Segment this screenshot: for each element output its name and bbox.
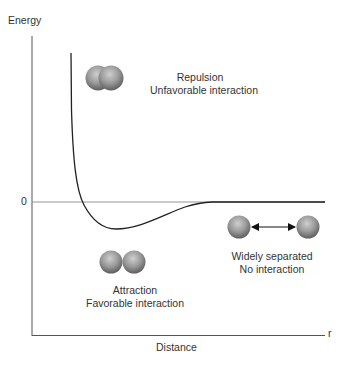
zero-label: 0 <box>21 195 27 208</box>
attraction-desc: Favorable interaction <box>80 297 190 310</box>
separated-title: Widely separated <box>222 250 322 263</box>
separated-label: Widely separated No interaction <box>222 250 322 276</box>
x-axis-label: Distance <box>156 341 197 354</box>
repulsion-desc: Unfavorable interaction <box>150 84 250 97</box>
attraction-title: Attraction <box>80 284 190 297</box>
y-axis-label: Energy <box>8 14 41 27</box>
separated-atoms-icon <box>228 216 320 239</box>
x-axis-symbol: r <box>328 327 332 340</box>
energy-diagram <box>0 0 351 368</box>
separated-desc: No interaction <box>222 263 322 276</box>
attraction-label: Attraction Favorable interaction <box>80 284 190 310</box>
repulsion-label: Repulsion Unfavorable interaction <box>150 71 250 97</box>
repulsion-title: Repulsion <box>150 71 250 84</box>
attraction-atoms-icon <box>100 251 146 274</box>
repulsion-atoms-icon <box>86 66 124 91</box>
